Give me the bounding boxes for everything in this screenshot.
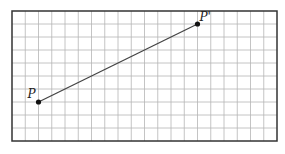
grid-diagram: P P' — [0, 0, 285, 154]
point-p — [36, 99, 41, 104]
label-p-prime: P' — [199, 10, 211, 24]
grid-lines — [12, 11, 277, 141]
label-p: P — [27, 87, 37, 101]
